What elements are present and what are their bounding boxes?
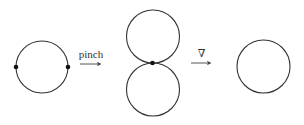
diagram-canvas: pinch ∇ <box>0 0 304 125</box>
marked-point-left <box>14 65 19 70</box>
circle-3 <box>237 40 290 93</box>
stage-circle-with-two-points <box>14 41 71 93</box>
arrow-pinch: pinch <box>79 48 104 66</box>
pinch-point <box>150 61 155 66</box>
stage-figure-eight <box>127 10 180 116</box>
circle-1 <box>16 41 68 93</box>
figure-eight-top-loop <box>127 10 180 63</box>
arrow-label-pinch: pinch <box>79 48 104 60</box>
arrow-nabla: ∇ <box>191 47 212 65</box>
marked-point-right <box>66 65 71 70</box>
arrow-label-nabla: ∇ <box>198 47 206 59</box>
stage-circle <box>237 40 290 93</box>
figure-eight-bottom-loop <box>127 63 180 116</box>
